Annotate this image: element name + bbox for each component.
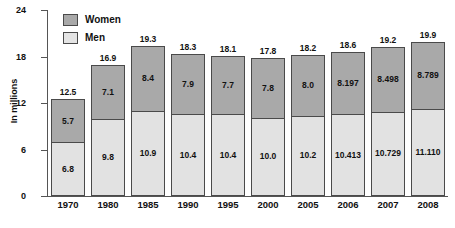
y-tick-label: 0 <box>0 192 26 201</box>
bar-value-label-women: 8.789 <box>417 71 438 80</box>
bar-segment-women[interactable]: 7.1 <box>91 65 125 120</box>
bar-segment-women[interactable]: 7.7 <box>211 56 245 116</box>
bar-segment-men[interactable]: 10.4 <box>211 115 245 196</box>
y-tick-label: 12 <box>0 99 26 108</box>
bar-group[interactable]: 10.28.018.2 <box>291 55 325 196</box>
bar-total-label: 19.9 <box>405 31 451 40</box>
bar-total-label: 16.9 <box>85 54 131 63</box>
y-tick-label: 24 <box>0 6 26 15</box>
bar-value-label-women: 7.8 <box>262 84 274 93</box>
bar-value-label-men: 10.413 <box>335 151 361 160</box>
bar-segment-men[interactable]: 11.110 <box>411 110 445 196</box>
bar-segment-women[interactable]: 8.789 <box>411 42 445 110</box>
bar-group[interactable]: 10.4138.19718.6 <box>331 52 365 196</box>
x-axis-label: 1970 <box>48 200 88 210</box>
x-axis-label: 2007 <box>368 200 408 210</box>
bar-segment-women[interactable]: 8.498 <box>371 47 405 113</box>
bar-segment-men[interactable]: 10.4 <box>171 115 205 196</box>
bar-value-label-men: 11.110 <box>415 148 440 157</box>
bar-group[interactable]: 6.85.712.5 <box>51 99 85 196</box>
x-axis-label: 1980 <box>88 200 128 210</box>
bar-value-label-men: 10.0 <box>260 152 277 161</box>
bar-value-label-women: 7.1 <box>102 88 114 97</box>
bar-group[interactable]: 10.47.718.1 <box>211 56 245 196</box>
y-tick-mark <box>41 57 47 58</box>
bar-value-label-men: 6.8 <box>62 165 74 174</box>
x-axis-label: 1995 <box>208 200 248 210</box>
bar-segment-women[interactable]: 8.0 <box>291 55 325 117</box>
bar-value-label-women: 8.0 <box>302 81 314 90</box>
bar-segment-women[interactable]: 7.8 <box>251 58 285 118</box>
bar-value-label-women: 5.7 <box>62 117 74 126</box>
bar-value-label-women: 8.4 <box>142 74 154 83</box>
bar-value-label-men: 10.4 <box>220 151 237 160</box>
bar-segment-men[interactable]: 6.8 <box>51 143 85 196</box>
bar-group[interactable]: 10.47.918.3 <box>171 54 205 196</box>
bar-group[interactable]: 10.7298.49819.2 <box>371 47 405 196</box>
x-axis-line <box>47 196 448 197</box>
x-axis-label: 2000 <box>248 200 288 210</box>
y-tick-mark <box>41 10 47 11</box>
bar-value-label-men: 10.9 <box>140 149 157 158</box>
bar-group[interactable]: 9.87.116.9 <box>91 65 125 196</box>
bar-value-label-men: 10.2 <box>300 151 317 160</box>
bar-segment-women[interactable]: 8.4 <box>131 46 165 111</box>
x-axis-label: 2006 <box>328 200 368 210</box>
x-axis-label: 2005 <box>288 200 328 210</box>
bar-segment-men[interactable]: 10.413 <box>331 115 365 196</box>
bar-segment-men[interactable]: 10.0 <box>251 119 285 197</box>
bar-value-label-women: 7.9 <box>182 80 194 89</box>
stacked-bar-chart: In millions 06121824 Women Men 6.85.712.… <box>0 0 455 228</box>
bar-segment-women[interactable]: 8.197 <box>331 52 365 116</box>
y-tick-label: 18 <box>0 53 26 62</box>
bar-value-label-women: 7.7 <box>222 81 234 90</box>
y-tick-mark <box>41 150 47 151</box>
bar-value-label-men: 9.8 <box>102 153 114 162</box>
bar-value-label-men: 10.729 <box>375 149 401 158</box>
bar-value-label-women: 8.498 <box>377 75 398 84</box>
plot-area: 6.85.712.59.87.116.910.98.419.310.47.918… <box>48 10 448 196</box>
bar-segment-men[interactable]: 9.8 <box>91 120 125 196</box>
bar-total-label: 12.5 <box>45 88 91 97</box>
bar-segment-women[interactable]: 7.9 <box>171 54 205 115</box>
x-axis-label: 1990 <box>168 200 208 210</box>
y-tick-mark <box>41 196 47 197</box>
bar-group[interactable]: 11.1108.78919.9 <box>411 42 445 196</box>
bar-segment-men[interactable]: 10.2 <box>291 117 325 196</box>
bar-segment-women[interactable]: 5.7 <box>51 99 85 143</box>
x-axis-label: 2008 <box>408 200 448 210</box>
bar-group[interactable]: 10.98.419.3 <box>131 46 165 196</box>
x-axis-label: 1985 <box>128 200 168 210</box>
bar-value-label-women: 8.197 <box>337 79 358 88</box>
bar-segment-men[interactable]: 10.9 <box>131 112 165 196</box>
bar-value-label-men: 10.4 <box>180 151 197 160</box>
y-tick-label: 6 <box>0 146 26 155</box>
y-tick-mark <box>41 103 47 104</box>
bar-group[interactable]: 10.07.817.8 <box>251 58 285 196</box>
bar-segment-men[interactable]: 10.729 <box>371 113 405 196</box>
